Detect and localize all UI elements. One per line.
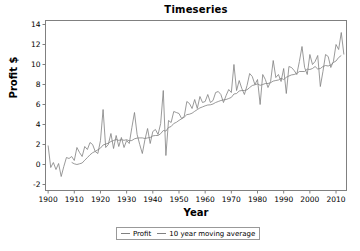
legend-item-moving-average: 10 year moving average [157,230,255,238]
y-tick-label: 0 [19,161,41,169]
y-tick-label: 4 [19,121,41,129]
legend-item-profit: Profit [121,230,151,238]
chart-legend: Profit 10 year moving average [116,227,260,240]
plot-area [0,0,360,251]
y-tick-label: 10 [19,61,41,69]
legend-line-icon [157,233,166,234]
legend-label: 10 year moving average [169,230,255,238]
y-tick-label: 2 [19,141,41,149]
plot-frame [46,21,347,191]
legend-line-icon [121,233,130,234]
legend-label: Profit [133,230,151,238]
y-tick-label: 14 [19,21,41,29]
y-tick-label: -2 [19,181,41,189]
y-tick-label: 12 [19,41,41,49]
chart-figure: Timeseries Profit $ Year -202468101214 1… [0,0,360,251]
y-tick-label: 8 [19,81,41,89]
y-tick-label: 6 [19,101,41,109]
x-tick-label: 2010 [321,196,351,204]
